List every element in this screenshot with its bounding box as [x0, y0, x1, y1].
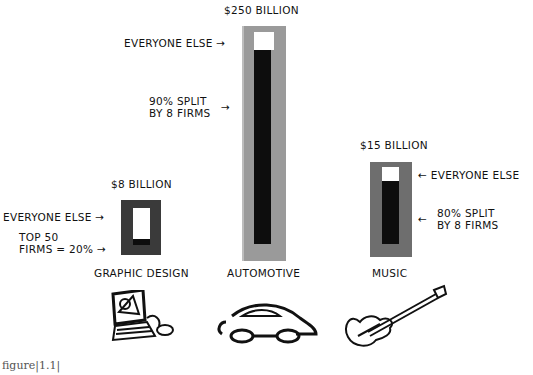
graphic-design-everyone-else-label: EVERYONE ELSE →: [3, 211, 104, 224]
category-music: MUSIC: [372, 267, 407, 280]
graphic-design-bar: [121, 200, 161, 255]
automotive-everyone-else-segment: [254, 32, 274, 50]
graphic-design-everyone-else-segment: [133, 208, 150, 239]
graphic-design-top-firms-segment: [133, 239, 150, 245]
music-top-firms-segment: [382, 181, 399, 244]
automotive-everyone-else-label: EVERYONE ELSE →: [124, 37, 225, 50]
graphic-design-top-firms-label-2: FIRMS = 20% →: [19, 243, 106, 256]
guitar-icon: [340, 282, 450, 352]
automotive-top-firms-segment: [254, 50, 271, 244]
graphic-design-value-label: $8 BILLION: [111, 178, 172, 191]
automotive-arrow-icon: →: [221, 101, 230, 114]
music-bar: [370, 162, 412, 257]
automotive-value-label: $250 BILLION: [224, 4, 299, 17]
category-automotive: AUTOMOTIVE: [227, 267, 300, 280]
figure-caption: figure|1.1|: [2, 359, 60, 372]
music-everyone-else-segment: [382, 167, 399, 181]
music-arrow-icon: ←: [418, 213, 427, 226]
car-icon: [212, 300, 322, 345]
music-everyone-else-label: ← EVERYONE ELSE: [418, 169, 519, 182]
automotive-top-firms-label-2: BY 8 FIRMS: [149, 107, 211, 120]
automotive-bar: [242, 26, 286, 261]
laptop-icon: [105, 290, 185, 350]
music-top-firms-label-2: BY 8 FIRMS: [437, 219, 499, 232]
music-value-label: $15 BILLION: [360, 139, 428, 152]
category-graphic-design: GRAPHIC DESIGN: [94, 267, 189, 280]
